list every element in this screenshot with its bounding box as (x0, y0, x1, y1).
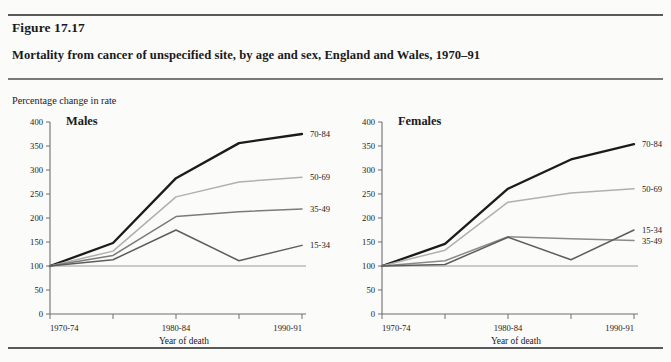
series-label-15-34: 15-34 (310, 240, 331, 250)
plot-area-males: 4003503002502001501005001970-741980-8419… (14, 104, 334, 354)
y-tick-label: 250 (30, 189, 43, 199)
y-tick-label: 0 (39, 309, 43, 319)
plot-area-females: 4003503002502001501005001970-741980-8419… (346, 104, 666, 354)
y-tick-label: 200 (30, 213, 43, 223)
series-label-70-84: 70-84 (642, 139, 663, 149)
y-tick-label: 100 (30, 261, 43, 271)
y-tick-label: 350 (30, 141, 43, 151)
header-bottom-rule (8, 78, 663, 80)
y-tick-label: 100 (362, 261, 375, 271)
y-tick-label: 150 (362, 237, 375, 247)
figure-number: Figure 17.17 (12, 20, 85, 36)
y-tick-label: 350 (362, 141, 375, 151)
series-label-35-49: 35-49 (310, 204, 330, 214)
series-label-70-84: 70-84 (310, 129, 331, 139)
chart-panel-females: Females 4003503002502001501005001970-741… (346, 104, 666, 354)
y-tick-label: 200 (362, 213, 375, 223)
series-label-50-69: 50-69 (642, 184, 662, 194)
series-line-35-49 (382, 237, 634, 266)
series-line-70-84 (50, 134, 302, 266)
y-tick-label: 50 (366, 285, 375, 295)
series-line-15-34 (50, 230, 302, 266)
y-tick-label: 250 (362, 189, 375, 199)
series-line-50-69 (382, 189, 634, 266)
figure-bottom-rule (8, 347, 663, 349)
y-tick-label: 300 (30, 165, 43, 175)
series-label-35-49: 35-49 (642, 236, 662, 246)
x-tick-label: 1990-91 (273, 323, 302, 333)
series-label-15-34: 15-34 (642, 225, 663, 235)
series-line-15-34 (382, 230, 634, 266)
figure-caption: Mortality from cancer of unspecified sit… (12, 48, 480, 63)
x-tick-label: 1970-74 (382, 323, 411, 333)
x-tick-label: 1990-91 (605, 323, 634, 333)
figure-container: Figure 17.17 Mortality from cancer of un… (0, 0, 671, 362)
y-tick-label: 400 (362, 117, 375, 127)
series-label-50-69: 50-69 (310, 172, 330, 182)
header-top-rule (8, 14, 663, 16)
x-axis-title: Year of death (491, 336, 541, 346)
y-tick-label: 0 (371, 309, 375, 319)
y-tick-label: 50 (34, 285, 43, 295)
y-tick-label: 150 (30, 237, 43, 247)
x-tick-label: 1980-84 (494, 323, 523, 333)
x-axis-title: Year of death (159, 336, 209, 346)
x-tick-label: 1980-84 (162, 323, 191, 333)
x-tick-label: 1970-74 (50, 323, 79, 333)
y-tick-label: 400 (30, 117, 43, 127)
y-tick-label: 300 (362, 165, 375, 175)
chart-panel-males: Males 4003503002502001501005001970-74198… (14, 104, 334, 354)
